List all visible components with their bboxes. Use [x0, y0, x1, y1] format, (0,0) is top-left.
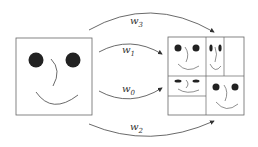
label-w1: w1	[122, 44, 135, 58]
label-w0: w0	[122, 83, 136, 97]
source-image	[16, 38, 92, 115]
label-w3: w3	[130, 15, 144, 29]
label-w2: w2	[130, 121, 144, 135]
arrow-w3	[89, 13, 214, 32]
left-eye-icon	[29, 53, 44, 68]
right-eye-icon	[66, 53, 81, 68]
diagram: w3 w1 w0 w2	[0, 0, 258, 147]
arrow-w2	[89, 121, 214, 136]
target-image	[168, 37, 244, 115]
